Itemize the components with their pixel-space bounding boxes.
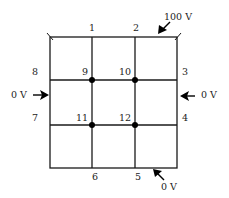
label-node-12: 12 [119, 112, 131, 123]
label-node-10: 10 [119, 66, 131, 77]
arrow-bottom-right-icon [153, 169, 164, 180]
label-potential-left: 0 V [11, 89, 27, 100]
label-potential-right: 0 V [201, 89, 217, 100]
grid-diagram: 1 2 3 4 5 6 7 8 9 10 11 12 100 V 0 V 0 V… [0, 0, 229, 198]
label-node-4: 4 [182, 112, 188, 123]
arrow-left-icon [33, 90, 49, 100]
label-node-8: 8 [32, 66, 38, 77]
node-9 [89, 77, 95, 83]
label-node-6: 6 [92, 171, 98, 182]
arrow-right-icon [180, 91, 195, 101]
label-node-5: 5 [135, 171, 141, 182]
label-node-9: 9 [82, 66, 88, 77]
label-potential-bottom: 0 V [161, 181, 177, 192]
node-11 [89, 122, 95, 128]
arrow-top-right-icon [158, 22, 170, 34]
label-node-3: 3 [182, 66, 188, 77]
label-node-7: 7 [32, 112, 38, 123]
node-12 [132, 122, 138, 128]
label-node-1: 1 [89, 22, 95, 33]
label-potential-top: 100 V [164, 11, 192, 22]
node-10 [132, 77, 138, 83]
label-node-11: 11 [76, 112, 88, 123]
outer-boundary [50, 37, 177, 168]
label-node-2: 2 [133, 22, 139, 33]
